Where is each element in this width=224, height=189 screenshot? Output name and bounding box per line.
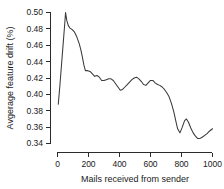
y-tick-label-8: 0.50 [26, 7, 43, 17]
y-axis-ticks [46, 13, 51, 144]
x-tick-label-1: 200 [81, 159, 95, 169]
data-series-line [58, 13, 212, 139]
y-tick-label-2: 0.38 [26, 106, 43, 116]
y-tick-label-3: 0.40 [26, 89, 43, 99]
y-tick-label-1: 0.36 [26, 122, 43, 132]
x-tick-label-5: 1000 [203, 159, 222, 169]
x-tick-label-2: 400 [112, 159, 126, 169]
line-chart: 0.34 0.36 0.38 0.40 0.42 0.44 0.46 0.48 … [0, 0, 224, 189]
x-axis-ticks [58, 153, 213, 158]
x-tick-label-4: 800 [174, 159, 188, 169]
x-tick-label-0: 0 [55, 159, 60, 169]
x-tick-label-3: 600 [143, 159, 157, 169]
y-tick-label-6: 0.46 [26, 40, 43, 50]
y-axis-title: Avgerage feature drift (%) [5, 27, 15, 130]
y-tick-label-7: 0.48 [26, 24, 43, 34]
y-tick-label-0: 0.34 [26, 138, 43, 148]
y-tick-label-5: 0.44 [26, 57, 43, 67]
chart-figure: 0.34 0.36 0.38 0.40 0.42 0.44 0.46 0.48 … [0, 0, 224, 189]
y-tick-label-4: 0.42 [26, 73, 43, 83]
x-axis-title: Mails received from sender [81, 174, 189, 184]
